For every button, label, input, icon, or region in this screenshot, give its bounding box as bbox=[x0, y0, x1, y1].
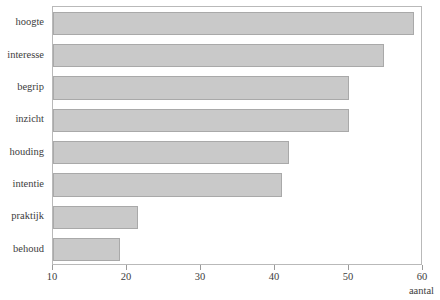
y-axis-label-begrip: begrip bbox=[17, 81, 44, 92]
y-axis-label-praktijk: praktijk bbox=[11, 210, 44, 221]
plot-area bbox=[52, 6, 422, 265]
bar-row bbox=[53, 44, 421, 67]
x-tick-mark-40 bbox=[274, 265, 275, 270]
y-axis-label-behoud: behoud bbox=[13, 243, 44, 254]
bar-inzicht bbox=[53, 109, 349, 132]
bar-row bbox=[53, 109, 421, 132]
y-axis-label-inzicht: inzicht bbox=[15, 113, 44, 124]
bar-row bbox=[53, 206, 421, 229]
bar-begrip bbox=[53, 76, 349, 99]
bar-row bbox=[53, 76, 421, 99]
x-axis-title: aantal bbox=[409, 285, 434, 297]
x-tick-label-20: 20 bbox=[121, 271, 132, 283]
y-axis-label-hoogte: hoogte bbox=[15, 16, 44, 27]
bar-houding bbox=[53, 141, 289, 164]
bar-row bbox=[53, 173, 421, 196]
bars-layer bbox=[53, 7, 421, 264]
x-tick-mark-20 bbox=[126, 265, 127, 270]
x-tick-mark-50 bbox=[348, 265, 349, 270]
x-tick-label-60: 60 bbox=[417, 271, 428, 283]
x-tick-mark-30 bbox=[200, 265, 201, 270]
x-tick-label-40: 40 bbox=[269, 271, 280, 283]
bar-interesse bbox=[53, 44, 384, 67]
x-tick-mark-10 bbox=[52, 265, 53, 270]
y-axis-category-labels: hoogteinteressebegripinzichthoudinginten… bbox=[0, 6, 48, 265]
bar-row bbox=[53, 12, 421, 35]
y-axis-label-interesse: interesse bbox=[7, 49, 44, 60]
y-axis-label-intentie: intentie bbox=[13, 178, 45, 189]
x-tick-label-30: 30 bbox=[195, 271, 206, 283]
y-axis-label-houding: houding bbox=[10, 146, 44, 157]
bar-behoud bbox=[53, 238, 120, 261]
x-tick-label-50: 50 bbox=[343, 271, 354, 283]
bar-chart: hoogteinteressebegripinzichthoudinginten… bbox=[0, 0, 440, 300]
x-tick-mark-60 bbox=[422, 265, 423, 270]
bar-intentie bbox=[53, 173, 282, 196]
bar-row bbox=[53, 238, 421, 261]
bar-hoogte bbox=[53, 12, 414, 35]
bar-row bbox=[53, 141, 421, 164]
x-tick-label-10: 10 bbox=[47, 271, 58, 283]
bar-praktijk bbox=[53, 206, 138, 229]
